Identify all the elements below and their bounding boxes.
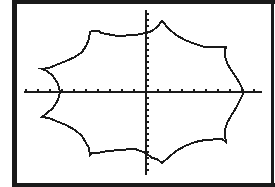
- frame-left-border: [12, 0, 17, 187]
- graph-screen: [0, 0, 275, 187]
- screen-frame: [0, 0, 275, 187]
- frame-top-border: [12, 0, 275, 4]
- frame-bottom-border: [12, 183, 275, 187]
- frame-right-border: [271, 0, 274, 187]
- screen-background: [0, 0, 275, 187]
- plot-area: [0, 0, 275, 187]
